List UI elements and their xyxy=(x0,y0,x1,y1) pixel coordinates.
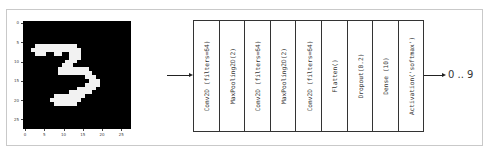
y-tick-label: 15 xyxy=(11,78,19,83)
input-digit-image xyxy=(23,21,131,129)
x-tick-mark xyxy=(64,129,65,131)
layer-block-conv2d-1: Conv2D (filters=64) xyxy=(194,21,220,131)
y-tick-label: 5 xyxy=(11,40,19,45)
model-layer-stack: Conv2D (filters=64) MaxPooling2D(2) Conv… xyxy=(193,20,424,132)
layer-label: MaxPooling2D(2) xyxy=(228,48,235,104)
x-tick-mark xyxy=(121,129,122,131)
layer-label: MaxPooling2D(2) xyxy=(280,48,287,104)
x-tick-label: 25 xyxy=(116,132,126,137)
output-arrow-head-icon xyxy=(442,73,446,77)
output-classes-label: 0 .. 9 xyxy=(448,69,473,80)
y-tick-label: 20 xyxy=(11,98,19,103)
layer-block-activation: Activation('softmax') xyxy=(399,21,425,131)
layer-label: Dense (10) xyxy=(382,57,389,94)
layer-label: Conv2D (filters=64) xyxy=(203,41,210,112)
x-tick-mark xyxy=(83,129,84,131)
y-tick-mark xyxy=(21,119,23,120)
layer-block-flatten: Flatten() xyxy=(322,21,348,131)
layer-block-conv2d-3: Conv2D (filters=64) xyxy=(296,21,322,131)
x-tick-label: 0 xyxy=(20,132,30,137)
x-tick-label: 5 xyxy=(39,132,49,137)
output-arrow-line xyxy=(424,75,442,76)
digit-pixel-grid xyxy=(23,21,131,129)
x-tick-label: 10 xyxy=(59,132,69,137)
y-tick-mark xyxy=(21,62,23,63)
y-tick-label: 25 xyxy=(11,117,19,122)
x-tick-label: 15 xyxy=(78,132,88,137)
y-tick-mark xyxy=(21,23,23,24)
y-tick-label: 0 xyxy=(11,20,19,25)
layer-block-conv2d-2: Conv2D (filters=64) xyxy=(245,21,271,131)
x-tick-label: 20 xyxy=(97,132,107,137)
input-arrow-line xyxy=(167,75,189,76)
x-tick-mark xyxy=(25,129,26,131)
layer-label: Conv2D (filters=64) xyxy=(254,41,261,112)
layer-label: Conv2D (filters=64) xyxy=(305,41,312,112)
layer-block-dropout: Dropout(0.2) xyxy=(348,21,374,131)
x-tick-mark xyxy=(102,129,103,131)
layer-label: Flatten() xyxy=(331,59,338,93)
layer-block-maxpooling-2: MaxPooling2D(2) xyxy=(271,21,297,131)
y-tick-mark xyxy=(21,42,23,43)
layer-label: Dropout(0.2) xyxy=(356,54,363,99)
layer-block-maxpooling-1: MaxPooling2D(2) xyxy=(220,21,246,131)
layer-block-dense: Dense (10) xyxy=(373,21,399,131)
y-tick-mark xyxy=(21,81,23,82)
layer-label: Activation('softmax') xyxy=(408,37,415,115)
y-tick-label: 10 xyxy=(11,59,19,64)
y-tick-mark xyxy=(21,100,23,101)
x-tick-mark xyxy=(44,129,45,131)
